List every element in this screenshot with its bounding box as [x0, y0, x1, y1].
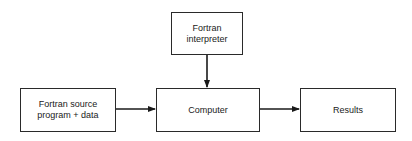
node-results: Results: [300, 88, 396, 132]
node-label-line: Fortran: [186, 23, 227, 34]
node-fortran-source: Fortran source program + data: [20, 88, 116, 132]
node-label-line: program + data: [37, 110, 98, 121]
node-fortran-interpreter: Fortran interpreter: [171, 12, 243, 55]
node-computer: Computer: [156, 88, 260, 132]
node-label: Computer: [188, 105, 228, 116]
node-label-line: Fortran source: [37, 99, 98, 110]
node-label: Results: [333, 105, 363, 116]
node-label-line: interpreter: [186, 34, 227, 45]
